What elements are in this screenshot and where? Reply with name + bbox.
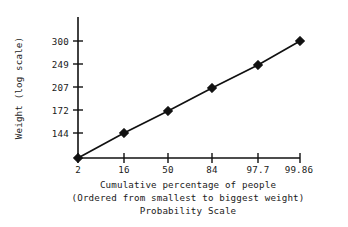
data-point-marker xyxy=(163,106,173,116)
y-tick-label: 172 xyxy=(52,105,69,116)
x-axis-tick-labels: 2 16 50 84 97.7 99.86 xyxy=(75,164,313,175)
x-axis-title-line-3: Probability Scale xyxy=(140,205,237,216)
x-axis-title-line-2: (Ordered from smallest to biggest weight… xyxy=(72,192,305,203)
data-point-marker xyxy=(295,36,305,46)
y-tick-label: 207 xyxy=(52,82,69,93)
data-point-marker xyxy=(253,60,263,70)
x-tick-label: 2 xyxy=(75,164,81,175)
data-point-marker xyxy=(207,83,217,93)
y-axis-tick-labels: 300 249 207 172 144 xyxy=(52,36,69,139)
x-tick-label: 50 xyxy=(162,164,173,175)
x-axis-title-line-1: Cumulative percentage of people xyxy=(100,179,276,190)
x-tick-label: 97.7 xyxy=(247,164,270,175)
y-tick-label: 249 xyxy=(52,59,69,70)
x-axis-title: Cumulative percentage of people (Ordered… xyxy=(72,179,305,216)
data-point-marker xyxy=(73,153,83,163)
data-point-marker xyxy=(119,128,129,138)
y-axis-title: Weight (log scale) xyxy=(13,37,24,139)
chart-canvas: 300 249 207 172 144 2 16 50 84 97.7 99.8… xyxy=(0,0,348,227)
probability-plot-figure: 300 249 207 172 144 2 16 50 84 97.7 99.8… xyxy=(0,0,348,227)
y-tick-label: 144 xyxy=(52,128,69,139)
x-tick-label: 16 xyxy=(118,164,129,175)
x-tick-label: 99.86 xyxy=(285,164,314,175)
data-series-line xyxy=(78,41,300,158)
y-tick-label: 300 xyxy=(52,36,69,47)
x-tick-label: 84 xyxy=(206,164,218,175)
